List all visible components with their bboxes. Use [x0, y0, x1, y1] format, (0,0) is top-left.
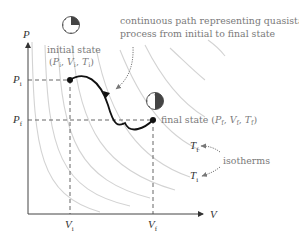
- path-note-line2: process from initial to final state: [120, 29, 275, 38]
- isotherm-ti-label: Ti: [190, 170, 198, 184]
- initial-state-point: [67, 77, 73, 83]
- y-axis-label: P: [23, 29, 30, 40]
- path-note-arrow: [116, 47, 133, 89]
- final-state-point: [150, 117, 156, 123]
- p-initial-label: Pi: [13, 74, 22, 88]
- initial-state-tuple: (Pi, Vi, Ti): [49, 57, 94, 69]
- v-initial-label: Vi: [65, 219, 74, 233]
- isotherm-ti-arrow: [202, 167, 220, 176]
- x-axis-label: V: [210, 209, 217, 220]
- v-final-label: Vf: [148, 219, 157, 233]
- dashed-guides: [28, 80, 153, 214]
- path-note-line1: continuous path representing quasistatic: [120, 16, 299, 25]
- isotherm-9: [208, 40, 225, 56]
- isotherm-tf-arrow: [201, 146, 220, 152]
- clock-icon-final: [147, 93, 164, 110]
- final-state-label: final state (Pf, Vf, Tf): [161, 115, 257, 127]
- pv-diagram: P V Pi Pf Vi Vf initial state (Pi, Vi, T…: [0, 0, 299, 240]
- isotherm-8: [170, 48, 205, 80]
- isotherm-2: [45, 45, 130, 206]
- p-final-label: Pf: [13, 114, 22, 128]
- axes: [28, 43, 203, 214]
- initial-state-title: initial state: [47, 45, 101, 54]
- isotherms-note: isotherms: [223, 156, 270, 165]
- clock-icon-initial: [63, 17, 80, 34]
- isotherm-tf-label: Tf: [190, 140, 198, 154]
